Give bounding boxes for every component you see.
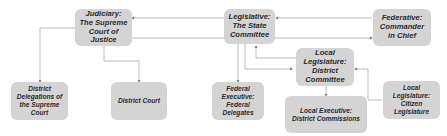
node-district-court[interactable]: District Court <box>111 82 167 120</box>
node-federative[interactable]: Federative: Commander in Chief <box>373 9 431 46</box>
edge-locallegis-legislative <box>256 46 298 58</box>
node-legislative[interactable]: Legislative: The State Committee <box>224 9 275 44</box>
node-label: Local Legislature: Citizen Legislature <box>393 84 430 115</box>
node-local-executive[interactable]: Local Executive: District Commissions <box>285 96 367 133</box>
node-local-legislature-citizen[interactable]: Local Legislature: Citizen Legislature <box>383 81 440 119</box>
node-local-legislature-district[interactable]: Local Legislature: District Committee <box>296 48 354 86</box>
node-judiciary[interactable]: Judiciary: The Supreme Court of Justice <box>75 9 132 46</box>
edge-legislative-locallegis <box>245 44 292 69</box>
diagram-canvas: Judiciary: The Supreme Court of Justice … <box>0 0 447 136</box>
node-label: Legislative: The State Committee <box>229 13 271 40</box>
node-label: Judiciary: The Supreme Court of Justice <box>79 10 127 46</box>
node-label: Local Executive: District Commissions <box>292 107 360 123</box>
node-label: Federative: Commander in Chief <box>380 14 424 41</box>
node-label: District Delegations of the Supreme Cour… <box>17 85 62 116</box>
node-label: Local Legislature: District Committee <box>303 49 346 85</box>
edge-judiciary-delegations <box>40 28 76 82</box>
node-district-delegations[interactable]: District Delegations of the Supreme Cour… <box>11 82 68 120</box>
edge-judiciary-districtcourt <box>104 46 139 82</box>
node-label: Federal Executive: Federal Delegates <box>222 85 255 116</box>
node-label: District Court <box>118 97 160 105</box>
node-federal-executive[interactable]: Federal Executive: Federal Delegates <box>212 82 264 120</box>
